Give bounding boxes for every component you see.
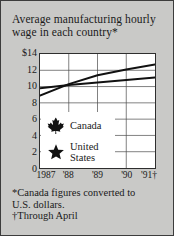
chart-area: 024681012$14 Canada [11,47,165,175]
series-line-united-states [40,78,155,89]
x-axis-tick: '89 [92,170,103,180]
x-axis-tick: '91† [141,170,157,180]
y-axis-tick: 4 [32,131,37,141]
y-axis-tick: 6 [32,114,37,124]
chart-card: Average manufacturing hourly wage in eac… [0,0,174,236]
legend-label-united-states-line1: United [70,141,99,152]
footnote-dagger: †Through April [12,210,168,222]
footnote-asterisk-line2: U.S. dollars. [12,199,168,211]
footnote-asterisk-line1: *Canada figures converted to [12,187,168,199]
y-axis-labels: 024681012$14 [11,47,37,175]
chart-footnotes: *Canada figures converted to U.S. dollar… [12,187,168,222]
legend-item-canada: Canada [47,116,102,134]
chart-legend: Canada UnitedStates [41,112,115,168]
x-axis-tick: '90 [121,170,132,180]
y-axis-tick: 8 [32,98,37,108]
maple-leaf-icon [47,116,65,134]
plot-area: Canada UnitedStates [39,53,156,169]
y-axis-tick: 2 [32,147,37,157]
y-axis-tick: 12 [27,65,37,75]
x-axis-tick: '88 [63,170,74,180]
star-icon [47,143,65,161]
chart-title: Average manufacturing hourly wage in eac… [12,13,168,39]
y-axis-tick: $14 [22,48,37,58]
x-axis-labels: 1987'88'89'90'91† [39,170,156,182]
legend-label-canada: Canada [70,120,102,131]
legend-item-united-states: UnitedStates [47,141,99,163]
legend-label-united-states: UnitedStates [70,141,99,163]
plot-frame: Canada UnitedStates [39,53,156,169]
legend-label-united-states-line2: States [70,152,95,163]
x-axis-tick: 1987 [37,170,56,180]
y-axis-tick: 10 [27,81,37,91]
